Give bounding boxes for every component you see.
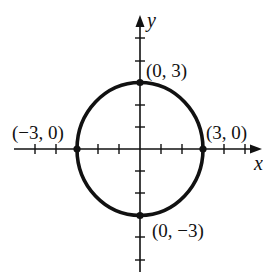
y-axis-arrow-icon: [136, 15, 145, 27]
x-axis-label: x: [253, 152, 263, 174]
point-label-left: (−3, 0): [12, 122, 64, 144]
y-axis-label: y: [145, 9, 156, 32]
point-bottom: [136, 212, 143, 219]
point-top: [136, 79, 143, 86]
point-label-top: (0, 3): [146, 60, 187, 82]
circle-diagram: y x (0, 3) (−3, 0) (3, 0) (0, −3): [0, 0, 263, 272]
point-right: [199, 145, 206, 152]
point-label-bottom: (0, −3): [152, 220, 204, 242]
point-left: [73, 145, 80, 152]
point-label-right: (3, 0): [206, 122, 247, 144]
